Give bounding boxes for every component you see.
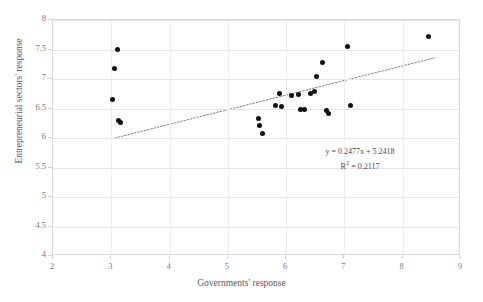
data-point — [118, 120, 123, 125]
x-axis-tick-mark — [285, 255, 286, 259]
data-point — [314, 74, 319, 79]
trendline — [111, 58, 434, 139]
y-axis-tick-mark — [48, 108, 52, 109]
gridline-horizontal — [53, 50, 459, 51]
data-point — [320, 60, 325, 65]
gridline-vertical — [403, 20, 404, 254]
x-axis-tick-mark — [227, 255, 228, 259]
x-axis-tick-mark — [52, 255, 53, 259]
y-axis-tick-label: 4 — [26, 249, 46, 259]
gridline-horizontal — [53, 197, 459, 198]
gridline-horizontal — [53, 20, 459, 21]
gridline-vertical — [228, 20, 229, 254]
gridline-horizontal — [53, 227, 459, 228]
y-axis-tick-label: 6 — [26, 131, 46, 141]
x-axis-tick-label: 8 — [387, 261, 417, 271]
x-axis-tick-label: 3 — [95, 261, 125, 271]
equation-text: y = 0.2477x + 5.2418 — [300, 146, 420, 157]
y-axis-title: Entrepreneurial sectors' response — [14, 0, 24, 204]
x-axis-tick-label: 5 — [212, 261, 242, 271]
y-axis-tick-mark — [48, 78, 52, 79]
gridline-horizontal — [53, 138, 459, 139]
x-axis-tick-mark — [402, 255, 403, 259]
y-axis-tick-mark — [48, 226, 52, 227]
x-axis-tick-mark — [169, 255, 170, 259]
plot-area — [52, 19, 460, 255]
gridline-vertical — [111, 20, 112, 254]
x-axis-tick-mark — [110, 255, 111, 259]
y-axis-tick-label: 8 — [26, 13, 46, 23]
x-axis-tick-label: 4 — [154, 261, 184, 271]
y-axis-tick-mark — [48, 196, 52, 197]
y-axis-tick-mark — [48, 137, 52, 138]
y-axis-tick-label: 7 — [26, 72, 46, 82]
r-squared-text: R2 = 0.2117 — [300, 157, 420, 172]
y-axis-tick-mark — [48, 19, 52, 20]
y-axis-tick-label: 5.5 — [26, 161, 46, 171]
gridline-horizontal — [53, 109, 459, 110]
gridline-vertical — [344, 20, 345, 254]
data-point — [256, 116, 261, 121]
y-axis-tick-label: 7.5 — [26, 43, 46, 53]
data-point — [277, 91, 282, 96]
gridline-vertical — [170, 20, 171, 254]
gridline-horizontal — [53, 79, 459, 80]
r-squared-value: = 0.2117 — [349, 162, 379, 171]
x-axis-tick-label: 7 — [328, 261, 358, 271]
y-axis-tick-label: 4.5 — [26, 220, 46, 230]
data-point — [348, 103, 353, 108]
data-point — [345, 44, 350, 49]
x-axis-tick-label: 9 — [445, 261, 475, 271]
y-axis-tick-mark — [48, 167, 52, 168]
x-axis-tick-label: 6 — [270, 261, 300, 271]
x-axis-tick-mark — [343, 255, 344, 259]
data-point — [326, 111, 331, 116]
x-axis-tick-mark — [460, 255, 461, 259]
data-point — [115, 47, 120, 52]
y-axis-tick-label: 5 — [26, 190, 46, 200]
y-axis-tick-mark — [48, 49, 52, 50]
trendline-equation-annotation: y = 0.2477x + 5.2418 R2 = 0.2117 — [300, 146, 420, 172]
y-axis-tick-label: 6.5 — [26, 102, 46, 112]
scatter-chart: Entrepreneurial sectors' response y = 0.… — [0, 0, 483, 302]
x-axis-title: Governments' response — [0, 278, 483, 288]
gridline-vertical — [286, 20, 287, 254]
x-axis-tick-label: 2 — [37, 261, 67, 271]
